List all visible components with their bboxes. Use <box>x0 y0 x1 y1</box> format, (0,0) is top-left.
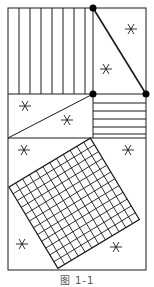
star-icon <box>19 101 31 111</box>
right-edge-point <box>143 91 150 98</box>
star-icon <box>122 145 134 155</box>
star-icon <box>16 239 28 249</box>
star-icon <box>125 24 137 34</box>
star-icon <box>100 64 112 74</box>
top-divider-point <box>90 5 97 12</box>
star-icon <box>18 145 30 155</box>
top-right-diagonal <box>93 8 146 94</box>
rotated-grid-square <box>9 138 139 268</box>
outer-rectangle <box>8 8 146 270</box>
middle-divider-point <box>90 91 97 98</box>
star-icon <box>61 115 73 125</box>
vertical-hatch <box>19 8 85 94</box>
geometry-figure <box>0 0 154 287</box>
horizontal-hatch <box>93 103 146 134</box>
figure-caption: 图 1-1 <box>0 272 154 287</box>
star-icon <box>110 242 122 252</box>
middle-left-diagonal <box>8 94 93 138</box>
